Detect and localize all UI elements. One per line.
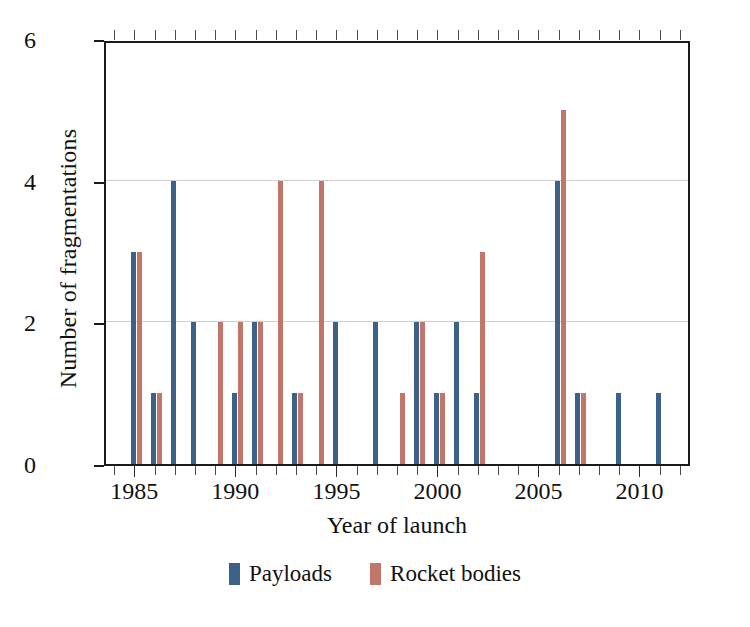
x-tick-label-1985: 1985: [94, 479, 174, 504]
x-tick-top-2003: [498, 30, 499, 40]
bar-payloads-1988: [191, 322, 196, 464]
x-tick-top-1990: [235, 30, 236, 40]
x-tick-mark-1991: [256, 466, 257, 475]
x-tick-top-2010: [639, 30, 640, 40]
x-tick-top-2007: [579, 30, 580, 40]
bar-rocket-bodies-1991: [258, 322, 263, 464]
bar-payloads-1985: [131, 252, 136, 465]
x-tick-mark-2010: [639, 466, 640, 477]
x-tick-top-1995: [336, 30, 337, 40]
x-tick-top-1999: [417, 30, 418, 40]
bar-rocket-bodies-1999: [420, 322, 425, 464]
x-tick-top-1987: [175, 30, 176, 40]
x-tick-top-2011: [660, 30, 661, 40]
legend-item-rocket[interactable]: Rocket bodies: [370, 562, 521, 585]
x-tick-top-1998: [397, 30, 398, 40]
bar-rocket-bodies-1989: [218, 322, 223, 464]
bar-rocket-bodies-1990: [238, 322, 243, 464]
bar-payloads-2007: [575, 393, 580, 464]
x-axis-title: Year of launch: [104, 512, 690, 539]
x-tick-top-2009: [619, 30, 620, 40]
x-tick-top-1989: [215, 30, 216, 40]
x-tick-mark-2011: [660, 466, 661, 475]
x-tick-top-2000: [437, 30, 438, 40]
x-tick-mark-2005: [538, 466, 539, 477]
y-tick-mark-4: [94, 182, 104, 184]
x-tick-mark-1999: [417, 466, 418, 475]
y-tick-mark-0: [94, 465, 104, 467]
chart-legend: PayloadsRocket bodies: [0, 562, 750, 585]
x-tick-mark-1987: [175, 466, 176, 475]
x-tick-mark-2012: [680, 466, 681, 475]
bar-rocket-bodies-1985: [137, 252, 142, 465]
x-tick-top-1996: [357, 30, 358, 40]
bar-rocket-bodies-2000: [440, 393, 445, 464]
x-tick-mark-1995: [336, 466, 337, 477]
bar-payloads-2000: [434, 393, 439, 464]
bar-rocket-bodies-1994: [319, 181, 324, 464]
bar-payloads-1990: [232, 393, 237, 464]
bar-payloads-2011: [656, 393, 661, 464]
y-axis-title: Number of fragmentations: [55, 69, 82, 449]
x-tick-mark-1990: [235, 466, 236, 477]
bar-rocket-bodies-2002: [480, 252, 485, 465]
y-tick-mark-6: [94, 40, 104, 42]
x-tick-mark-1996: [357, 466, 358, 475]
y-tick-label-2: 2: [0, 311, 36, 335]
x-tick-top-1997: [377, 30, 378, 40]
bar-payloads-1991: [252, 322, 257, 464]
bar-payloads-2009: [616, 393, 621, 464]
legend-swatch-rocket-icon: [370, 563, 381, 585]
y-tick-label-0: 0: [0, 453, 36, 477]
plot-area: [104, 41, 690, 466]
x-tick-mark-1986: [155, 466, 156, 475]
x-tick-mark-2008: [599, 466, 600, 475]
x-tick-label-2000: 2000: [397, 479, 477, 504]
x-tick-top-1994: [316, 30, 317, 40]
x-tick-top-2001: [458, 30, 459, 40]
bar-rocket-bodies-1998: [400, 393, 405, 464]
x-tick-label-1995: 1995: [296, 479, 376, 504]
x-tick-top-1993: [296, 30, 297, 40]
legend-label: Rocket bodies: [390, 562, 521, 585]
x-tick-mark-1989: [215, 466, 216, 475]
bar-payloads-1997: [373, 322, 378, 464]
bar-payloads-1987: [171, 181, 176, 464]
bar-rocket-bodies-1992: [278, 181, 283, 464]
fragmentation-bar-chart: Number of fragmentations 0246 1985199019…: [0, 0, 750, 627]
bar-payloads-1986: [151, 393, 156, 464]
x-tick-top-2004: [518, 30, 519, 40]
x-tick-top-2005: [538, 30, 539, 40]
x-tick-mark-2007: [579, 466, 580, 475]
x-tick-mark-2009: [619, 466, 620, 475]
x-tick-label-2010: 2010: [599, 479, 679, 504]
x-tick-label-1990: 1990: [195, 479, 275, 504]
bar-rocket-bodies-1986: [157, 393, 162, 464]
bar-rocket-bodies-1993: [298, 393, 303, 464]
x-tick-top-1986: [155, 30, 156, 40]
y-tick-mark-2: [94, 323, 104, 325]
x-tick-mark-1988: [195, 466, 196, 475]
x-tick-mark-2002: [478, 466, 479, 475]
bar-payloads-2001: [454, 322, 459, 464]
x-tick-top-1985: [134, 30, 135, 40]
x-tick-mark-1993: [296, 466, 297, 475]
x-tick-top-1992: [276, 30, 277, 40]
x-tick-mark-2001: [458, 466, 459, 475]
x-tick-mark-2003: [498, 466, 499, 475]
bar-payloads-1995: [333, 322, 338, 464]
y-tick-label-6: 6: [0, 28, 36, 52]
bar-rocket-bodies-2007: [581, 393, 586, 464]
bar-payloads-2006: [555, 181, 560, 464]
x-tick-mark-1992: [276, 466, 277, 475]
x-tick-mark-2000: [437, 466, 438, 477]
x-tick-top-1984: [114, 30, 115, 40]
x-tick-top-2008: [599, 30, 600, 40]
x-tick-top-2002: [478, 30, 479, 40]
x-tick-top-1991: [256, 30, 257, 40]
x-tick-top-2006: [559, 30, 560, 40]
legend-item-payload[interactable]: Payloads: [229, 562, 332, 585]
y-tick-label-4: 4: [0, 170, 36, 194]
x-tick-mark-2004: [518, 466, 519, 475]
bars-layer: [106, 43, 688, 464]
